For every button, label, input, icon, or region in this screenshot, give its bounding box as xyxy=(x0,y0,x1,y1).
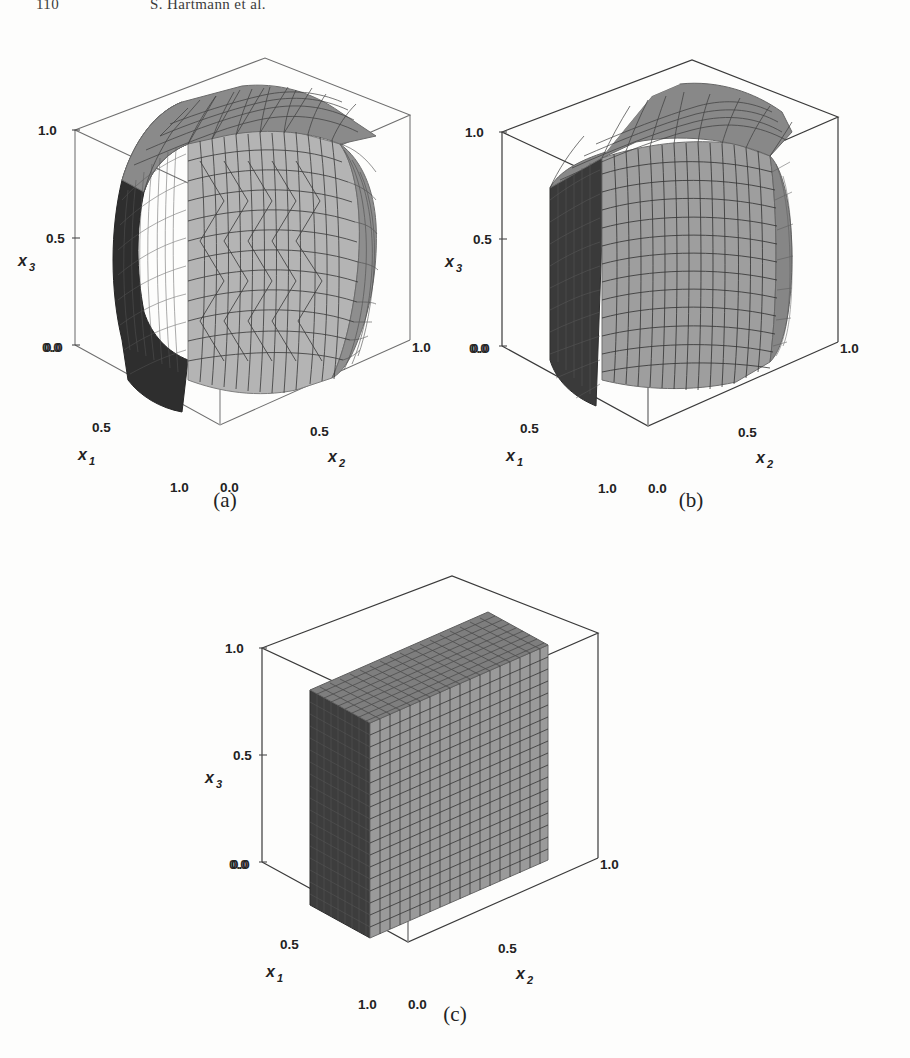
panel-b: 1.0 0.5 0.0 x 3 0.5 x 1 1.0 0.0 0.0 0.5 … xyxy=(430,40,900,500)
axis-sub-x3-b: 3 xyxy=(456,262,462,274)
tick-x2-05-c: 0.5 xyxy=(498,941,517,956)
running-head-authors: S. Hartmann et al. xyxy=(150,0,266,13)
tick-x2-10-a: 1.0 xyxy=(412,340,431,355)
axis-sub-x1-b: 1 xyxy=(517,456,523,468)
tick-x3-05-a: 0.5 xyxy=(46,231,65,246)
panel-c: 1.0 0.5 0.0 x 3 0.5 x 1 1.0 0.0 0.0 0.5 … xyxy=(200,560,720,1030)
panel-a: 1.0 0.5 0.0 x 3 0.5 x 1 1.0 0.0 0.0 0.5 … xyxy=(10,40,440,500)
axis-label-x3-a: x xyxy=(17,252,28,269)
tick-x1-05-a: 0.5 xyxy=(92,420,111,435)
axis-sub-x2-c: 2 xyxy=(526,974,533,986)
running-head: 110 S. Hartmann et al. xyxy=(0,0,910,14)
tick-x3-10-a: 1.0 xyxy=(38,123,57,138)
caption-b: (b) xyxy=(646,488,736,513)
tick-x3-05-b: 0.5 xyxy=(473,232,492,247)
axis-sub-x3-c: 3 xyxy=(216,778,222,790)
tick-x1-00-b: 0.0 xyxy=(469,341,488,356)
axis-label-x3-c: x xyxy=(204,769,215,786)
plot-a-svg: 1.0 0.5 0.0 x 3 0.5 x 1 1.0 0.0 0.0 0.5 … xyxy=(10,40,440,500)
plot-c-svg: 1.0 0.5 0.0 x 3 0.5 x 1 1.0 0.0 0.0 0.5 … xyxy=(200,560,720,1030)
tick-x1-00-c: 0.0 xyxy=(229,857,248,872)
axis-label-x3-b: x xyxy=(444,253,455,270)
mesh-body-a xyxy=(113,85,378,412)
tick-x2-10-c: 1.0 xyxy=(600,857,619,872)
figure-page: 110 S. Hartmann et al. xyxy=(0,0,910,1058)
axis-sub-x1-c: 1 xyxy=(277,972,283,984)
axis-x3-b: 1.0 0.5 0.0 x 3 xyxy=(444,125,507,356)
mesh-body-b xyxy=(550,74,793,406)
tick-x3-05-c: 0.5 xyxy=(233,748,252,763)
axis-x3-c: 1.0 0.5 0.0 x 3 xyxy=(204,641,267,872)
axis-sub-x1-a: 1 xyxy=(89,455,95,467)
tick-x1-05-c: 0.5 xyxy=(280,937,299,952)
axis-label-x1-a: x xyxy=(77,446,88,463)
tick-x2-05-b: 0.5 xyxy=(738,425,757,440)
axis-label-x1-c: x xyxy=(265,963,276,980)
tick-x3-10-c: 1.0 xyxy=(225,641,244,656)
caption-a: (a) xyxy=(180,488,270,513)
caption-c: (c) xyxy=(410,1002,500,1027)
tick-x1-10-c: 1.0 xyxy=(358,997,377,1012)
tick-x1-10-b: 1.0 xyxy=(598,481,617,496)
axis-label-x2-c: x xyxy=(515,965,526,982)
axis-x3-a: 1.0 0.5 0.0 x 3 xyxy=(17,123,80,355)
tick-x2-05-a: 0.5 xyxy=(310,424,329,439)
axis-sub-x2-a: 2 xyxy=(338,457,345,469)
axis-label-x2-b: x xyxy=(755,449,766,466)
page-number: 110 xyxy=(36,0,59,13)
tick-x1-00-a: 0.0 xyxy=(42,340,61,355)
mesh-body-c xyxy=(310,612,548,938)
axis-sub-x3-a: 3 xyxy=(29,261,35,273)
tick-x2-10-b: 1.0 xyxy=(840,341,859,356)
plot-b-svg: 1.0 0.5 0.0 x 3 0.5 x 1 1.0 0.0 0.0 0.5 … xyxy=(430,40,900,500)
axis-label-x2-a: x xyxy=(327,448,338,465)
tick-x3-10-b: 1.0 xyxy=(465,125,484,140)
tick-x1-05-b: 0.5 xyxy=(520,421,539,436)
axis-sub-x2-b: 2 xyxy=(766,458,773,470)
axis-label-x1-b: x xyxy=(505,447,516,464)
